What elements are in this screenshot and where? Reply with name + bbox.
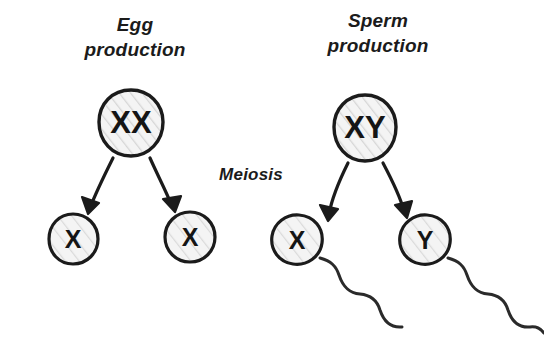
arrow-sperm-right — [383, 163, 412, 218]
sperm-gamete-right-chromosome: Y — [417, 226, 434, 254]
sperm-production-label: Sperm production — [303, 8, 453, 58]
arrow-egg-left — [82, 158, 113, 214]
egg-gamete-left: X — [49, 214, 98, 264]
egg-gamete-left-chromosome: X — [65, 225, 82, 253]
arrow-egg-right — [150, 158, 181, 212]
egg-parent-cell: XX — [99, 90, 163, 156]
meiosis-label: Meiosis — [203, 164, 299, 186]
sperm-gamete-right: Y — [400, 215, 544, 333]
meiosis-diagram: XX X X XY — [0, 0, 544, 364]
egg-production-label: Egg production — [60, 12, 210, 62]
sperm-parent-cell: XY — [334, 95, 396, 161]
egg-gamete-right: X — [165, 212, 215, 262]
sperm-gamete-left-tail — [320, 258, 402, 327]
sperm-parent-genotype: XY — [344, 110, 386, 145]
arrow-sperm-left — [320, 163, 348, 221]
sperm-gamete-left: X — [272, 215, 402, 327]
sperm-gamete-left-chromosome: X — [289, 226, 306, 254]
egg-parent-genotype: XX — [110, 105, 152, 140]
sperm-gamete-right-tail — [448, 258, 544, 333]
egg-gamete-right-chromosome: X — [182, 223, 199, 251]
